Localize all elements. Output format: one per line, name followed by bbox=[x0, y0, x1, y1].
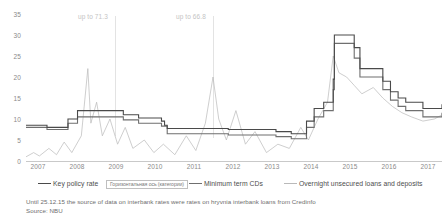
y-tick-25: 25 bbox=[14, 53, 21, 60]
footnote-line-1: Until 25.12.15 the source of data on int… bbox=[26, 198, 442, 207]
y-tick-30: 30 bbox=[14, 32, 21, 39]
horizontal-axis-placeholder-box[interactable]: Горизонтальная ось (категории) bbox=[106, 180, 188, 189]
legend-item-overnight[interactable]: Overnight unsecured loans and deposits bbox=[284, 180, 423, 187]
x-tick-2016: 2016 bbox=[382, 163, 397, 170]
legend-swatch-key-policy-rate bbox=[38, 183, 51, 184]
legend-swatch-minimum-term-cds bbox=[189, 183, 202, 184]
legend-item-minimum-term-cds[interactable]: Minimum term CDs bbox=[189, 180, 263, 187]
y-tick-15: 15 bbox=[14, 95, 21, 102]
legend-swatch-overnight bbox=[284, 183, 297, 184]
x-tick-2014: 2014 bbox=[304, 163, 319, 170]
x-tick-2008: 2008 bbox=[70, 163, 85, 170]
plot-area bbox=[26, 14, 442, 161]
legend-label-overnight: Overnight unsecured loans and deposits bbox=[299, 180, 423, 187]
interest-rates-chart: up to 71.3 up to 66.8 35 30 25 20 15 10 … bbox=[0, 0, 448, 222]
y-tick-20: 20 bbox=[14, 74, 21, 81]
x-tick-2013: 2013 bbox=[265, 163, 280, 170]
series-lines bbox=[26, 14, 442, 161]
legend-label-key-policy-rate: Key policy rate bbox=[53, 180, 98, 187]
y-tick-10: 10 bbox=[14, 116, 21, 123]
y-tick-5: 5 bbox=[17, 137, 21, 144]
x-tick-2012: 2012 bbox=[226, 163, 241, 170]
legend-item-key-policy-rate[interactable]: Key policy rate bbox=[38, 180, 98, 187]
legend-label-minimum-term-cds: Minimum term CDs bbox=[204, 180, 263, 187]
x-tick-2007: 2007 bbox=[31, 163, 46, 170]
x-tick-2010: 2010 bbox=[148, 163, 163, 170]
series-line-2 bbox=[26, 56, 442, 157]
footnote-line-2: Source: NBU bbox=[26, 207, 442, 216]
footnote: Until 25.12.15 the source of data on int… bbox=[26, 198, 442, 216]
y-tick-0: 0 bbox=[17, 158, 21, 165]
x-tick-2011: 2011 bbox=[187, 163, 201, 170]
series-line-1 bbox=[26, 43, 442, 138]
y-axis-labels: 35 30 25 20 15 10 5 0 bbox=[0, 14, 24, 161]
x-tick-2009: 2009 bbox=[109, 163, 124, 170]
x-axis-labels: 2007 2008 2009 2010 2011 2012 2013 2014 … bbox=[26, 162, 442, 176]
x-tick-2015: 2015 bbox=[343, 163, 358, 170]
x-tick-2017: 2017 bbox=[421, 163, 436, 170]
y-tick-35: 35 bbox=[14, 11, 21, 18]
chart-legend: Key policy rate Горизонтальная ось (кате… bbox=[26, 180, 442, 194]
